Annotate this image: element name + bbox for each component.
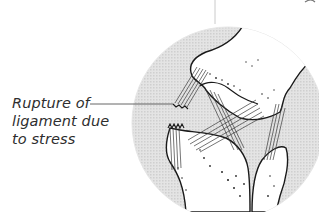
callout-line-2: ligament due [12,112,109,130]
callout-line-3: to stress [12,130,109,148]
knee-ligament-diagram: Rupture of ligament due to stress [0,0,319,212]
partial-label-glyph [305,0,315,2]
callout-line-1: Rupture of [12,94,109,112]
callout-label-ligament-rupture: Rupture of ligament due to stress [12,94,109,148]
